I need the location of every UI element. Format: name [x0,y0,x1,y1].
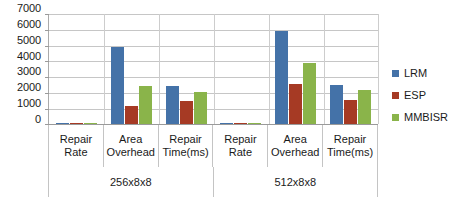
x-category-line: Area [284,133,307,146]
legend-swatch-icon [392,92,399,99]
bar-lrm[interactable] [166,86,179,125]
bar-mmbisr[interactable] [248,123,261,124]
bar-cluster-repair-rate [49,14,104,124]
category-separator [104,14,105,124]
bar-cluster-area-overhead [104,14,159,124]
y-tick-label: 3000 [17,66,41,77]
x-category-line: Area [119,133,142,146]
x-category-line: Repair [60,133,92,146]
x-axis-category-row: Repair Rate Area Overhead Repair Time(ms… [48,125,378,167]
legend-label: ESP [404,90,426,101]
group-separator [214,14,215,124]
bar-chart: 7000 6000 5000 4000 3000 2000 1000 0 [0,0,450,199]
bar-lrm[interactable] [56,123,69,124]
y-tick-label: 1000 [17,98,41,109]
x-category-line: Time(ms) [163,146,209,159]
legend: LRM ESP MMBISR [392,62,450,128]
bar-mmbisr[interactable] [139,86,152,124]
y-tick-label: 5000 [17,35,41,46]
y-tick-label: 0 [35,114,41,125]
x-axis: Repair Rate Area Overhead Repair Time(ms… [48,125,378,197]
legend-item-lrm[interactable]: LRM [392,62,450,84]
bar-esp[interactable] [70,123,83,124]
bar-esp[interactable] [180,101,193,124]
bar-mmbisr[interactable] [303,63,316,124]
bar-esp[interactable] [344,100,357,124]
bar-group-512x8x8 [214,14,379,124]
legend-swatch-icon [392,114,399,121]
x-category-label-repair-rate: Repair Rate [213,125,268,167]
x-category-line: Repair [224,133,256,146]
x-category-line: Overhead [271,146,319,159]
y-tick-label: 2000 [17,82,41,93]
x-category-line: Repair [169,133,201,146]
y-tick-label: 4000 [17,51,41,62]
x-category-line: Time(ms) [327,146,373,159]
category-separator [378,14,379,124]
bar-lrm[interactable] [111,47,124,124]
legend-label: LRM [404,68,427,79]
bar-cluster-repair-time [323,14,378,124]
x-category-line: Rate [229,146,252,159]
bar-lrm[interactable] [330,85,343,124]
x-category-label-area-overhead: Area Overhead [104,125,159,167]
x-axis-group-row: 256x8x8 512x8x8 [48,167,378,197]
x-category-line: Rate [64,146,87,159]
plot-area [48,14,378,125]
x-category-label-area-overhead: Area Overhead [268,125,323,167]
legend-label: MMBISR [404,112,448,123]
bar-cluster-repair-time [159,14,214,124]
bar-lrm[interactable] [275,31,288,125]
x-group-label-512x8x8: 512x8x8 [214,167,379,197]
bar-lrm[interactable] [220,123,233,124]
bar-esp[interactable] [234,123,247,124]
legend-swatch-icon [392,70,399,77]
bar-esp[interactable] [125,106,138,124]
y-tick-label: 7000 [17,3,41,14]
x-category-line: Repair [334,133,366,146]
x-category-label-repair-time: Repair Time(ms) [323,125,378,167]
x-group-label-256x8x8: 256x8x8 [48,167,214,197]
category-separator [269,14,270,124]
legend-item-esp[interactable]: ESP [392,84,450,106]
bar-cluster-repair-rate [214,14,269,124]
bar-mmbisr[interactable] [194,92,207,124]
y-tick-label: 6000 [17,19,41,30]
category-separator [324,14,325,124]
category-separator [159,14,160,124]
bar-mmbisr[interactable] [84,123,97,124]
x-category-line: Overhead [107,146,155,159]
x-category-label-repair-rate: Repair Rate [48,125,104,167]
bar-group-256x8x8 [49,14,214,124]
x-category-label-repair-time: Repair Time(ms) [159,125,214,167]
legend-item-mmbisr[interactable]: MMBISR [392,106,450,128]
bar-cluster-area-overhead [268,14,323,124]
bar-mmbisr[interactable] [358,90,371,124]
bar-esp[interactable] [289,84,302,124]
y-axis: 7000 6000 5000 4000 3000 2000 1000 0 [0,8,44,126]
